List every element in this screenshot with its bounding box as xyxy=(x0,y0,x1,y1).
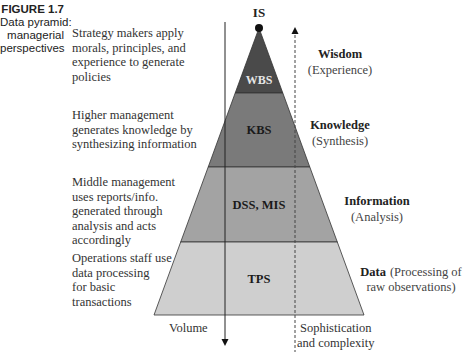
level-subtitle: (Processing of xyxy=(390,265,462,279)
right-label-knowledge: Knowledge (Synthesis) xyxy=(300,117,380,149)
apex-dot xyxy=(255,24,263,32)
right-label-information: Information (Analysis) xyxy=(327,193,427,225)
level-title: Knowledge xyxy=(300,117,380,133)
level-subtitle: (Analysis) xyxy=(327,209,427,225)
level-subtitle: (Synthesis) xyxy=(300,133,380,149)
level-subtitle: (Experience) xyxy=(300,62,380,78)
down-arrow-icon xyxy=(222,339,229,346)
level-label-kbs: KBS xyxy=(229,123,289,138)
apex-label: IS xyxy=(248,5,270,21)
level-label-tps: TPS xyxy=(229,272,289,287)
level-title: Wisdom xyxy=(300,46,380,62)
level-subtitle-2: raw observations) xyxy=(356,280,466,295)
level-title: Information xyxy=(327,193,427,209)
right-label-data: Data (Processing of raw observations) xyxy=(356,263,466,295)
sophistication-label-line: Sophistication xyxy=(297,321,374,336)
up-arrow-icon xyxy=(292,27,299,34)
right-label-wisdom: Wisdom (Experience) xyxy=(300,46,380,78)
sophistication-label: Sophistication and complexity xyxy=(297,321,374,350)
level-label-wbs: WBS xyxy=(229,73,289,88)
level-label-dss: DSS, MIS xyxy=(214,198,304,213)
sophistication-label-line: and complexity xyxy=(297,336,374,351)
volume-label: Volume xyxy=(169,321,208,336)
level-title: Data xyxy=(360,265,386,279)
